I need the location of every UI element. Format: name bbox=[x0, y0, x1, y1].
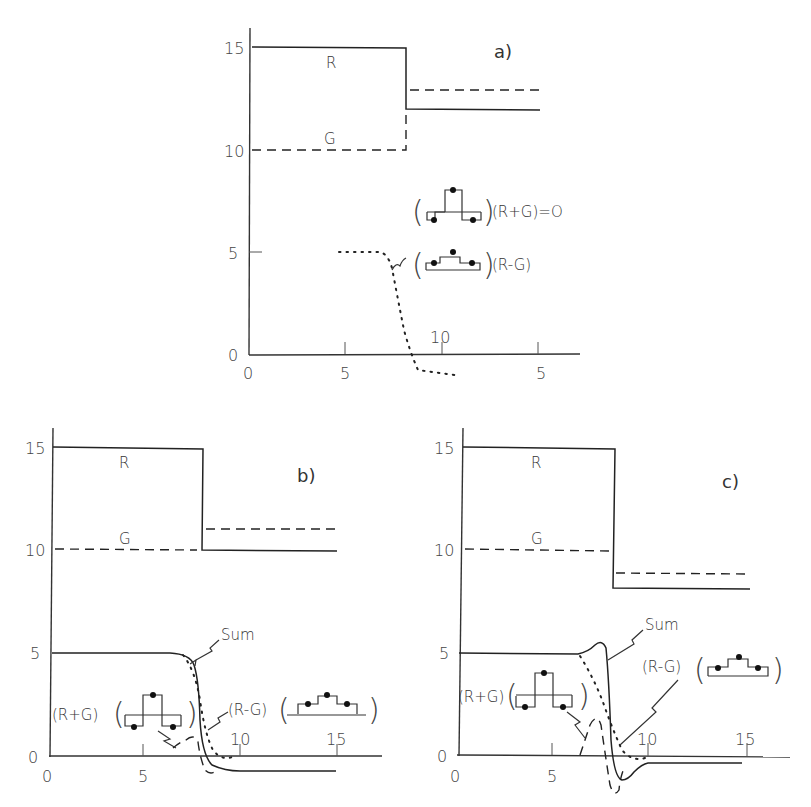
label-R: R bbox=[531, 454, 541, 472]
paren-left: ( bbox=[113, 696, 125, 731]
kernel-dot bbox=[715, 665, 721, 671]
kernel-dot bbox=[305, 701, 311, 707]
label-rg-diff: (R-G) bbox=[492, 256, 531, 274]
x-tick-label: 5 bbox=[138, 767, 148, 786]
y-tick-label: 5 bbox=[439, 644, 449, 663]
paren-left: ( bbox=[506, 678, 518, 713]
y-axis bbox=[249, 28, 250, 355]
x-tick-label: 0 bbox=[42, 767, 52, 786]
label-rg-sum: (R+G)=O bbox=[492, 203, 563, 221]
paren-right: ) bbox=[368, 692, 380, 727]
label-rg-sum: (R+G) bbox=[458, 688, 504, 706]
x-tick-label: 0 bbox=[243, 364, 253, 383]
kernel-dot bbox=[470, 217, 476, 223]
x-axis bbox=[249, 354, 580, 355]
label-sum: Sum bbox=[645, 616, 679, 634]
kernel-center-right bbox=[535, 673, 572, 707]
x-tick-label: 15 bbox=[735, 730, 755, 749]
label-R: R bbox=[326, 54, 336, 72]
pointer-arrow-sum bbox=[608, 630, 643, 660]
series-G bbox=[465, 549, 609, 551]
kernel-center bbox=[445, 190, 462, 212]
y-tick-label: 10 bbox=[224, 142, 244, 161]
label-G: G bbox=[531, 530, 543, 548]
kernel-dot bbox=[522, 704, 528, 710]
kernel-dot bbox=[736, 654, 742, 660]
kernel-dot bbox=[131, 724, 137, 730]
kernel-dot bbox=[560, 704, 566, 710]
y-tick-label: 0 bbox=[228, 346, 238, 365]
x-tick-label: 5 bbox=[536, 364, 546, 383]
y-tick-label: 15 bbox=[224, 39, 244, 58]
paren-left: ( bbox=[412, 247, 424, 282]
kernel-dot bbox=[450, 249, 456, 255]
kernel-dot bbox=[541, 670, 547, 676]
kernel-dot bbox=[450, 187, 456, 193]
panel-b: 15 10 5 0 0 5 10 15 R G b) Sum (R+G) ( bbox=[25, 428, 382, 786]
series-RG-sum bbox=[173, 737, 218, 773]
series-R bbox=[53, 447, 337, 551]
y-tick-label: 5 bbox=[30, 644, 40, 663]
label-rg-diff: (R-G) bbox=[228, 701, 267, 719]
paren-right: ) bbox=[186, 696, 198, 731]
kernel-left bbox=[125, 706, 143, 726]
x-tick-label: 15 bbox=[326, 730, 346, 749]
pointer-arrow-rg-sum bbox=[158, 731, 176, 748]
kernel-dot bbox=[431, 217, 437, 223]
x-tick-label: 10 bbox=[637, 730, 657, 749]
label-R: R bbox=[119, 454, 129, 472]
kernel-icon-rg-sum: ( ) bbox=[506, 670, 590, 713]
x-tick-label: 5 bbox=[340, 364, 350, 383]
kernel-icon-rg-diff: ( ) bbox=[278, 692, 380, 727]
series-R bbox=[463, 447, 750, 589]
paren-left: ( bbox=[412, 194, 424, 229]
y-axis bbox=[459, 428, 463, 756]
x-tick-label: 0 bbox=[450, 767, 460, 786]
pointer-arrow-rg-sum bbox=[567, 712, 585, 738]
label-G: G bbox=[119, 530, 131, 548]
kernel-dot bbox=[324, 692, 330, 698]
kernel-dot bbox=[344, 701, 350, 707]
kernel-icon-rg-diff: ( ) bbox=[694, 652, 784, 687]
paren-right: ) bbox=[772, 652, 784, 687]
y-tick-label: 10 bbox=[434, 541, 454, 560]
label-sum: Sum bbox=[221, 626, 255, 644]
y-tick-label: 15 bbox=[434, 439, 454, 458]
panel-label-a: a) bbox=[494, 41, 512, 62]
pointer-arrow-sum bbox=[196, 640, 219, 660]
x-axis bbox=[457, 755, 790, 757]
kernel-dot bbox=[170, 724, 176, 730]
series-RG-diff bbox=[580, 656, 645, 759]
paren-right: ) bbox=[578, 678, 590, 713]
kernel-center-right bbox=[143, 695, 181, 726]
paren-left: ( bbox=[694, 652, 706, 687]
series-G-right bbox=[616, 573, 748, 574]
label-G: G bbox=[324, 130, 336, 148]
panel-c: 15 10 5 0 0 5 10 15 R G c) Sum (R-G) ( ) bbox=[434, 428, 790, 793]
kernel-icon-rg-sum: ( ) (R+G)=O bbox=[412, 187, 563, 229]
x-tick-label: 5 bbox=[547, 767, 557, 786]
panel-label-b: b) bbox=[297, 465, 315, 486]
x-tick-label: 10 bbox=[230, 730, 250, 749]
pointer-arrow-rg-diff bbox=[208, 712, 228, 730]
kernel-dot bbox=[431, 260, 437, 266]
kernel-dot bbox=[150, 692, 156, 698]
x-tick-label: 10 bbox=[430, 328, 450, 347]
kernel-icon-rg-diff: ( ) (R-G) bbox=[392, 247, 531, 282]
kernel-icon-rg-sum: ( ) bbox=[113, 692, 198, 731]
figure: 15 10 5 0 0 5 10 5 R G a) ( ) (R+G)=O bbox=[0, 0, 811, 807]
y-tick-label: 5 bbox=[228, 244, 238, 263]
pointer-arrow bbox=[392, 258, 406, 270]
label-rg-sum: (R+G) bbox=[52, 706, 98, 724]
panel-a: 15 10 5 0 0 5 10 5 R G a) ( ) (R+G)=O bbox=[224, 28, 580, 383]
panel-label-c: c) bbox=[722, 471, 739, 492]
label-rg-diff: (R-G) bbox=[642, 658, 681, 676]
y-tick-label: 0 bbox=[28, 748, 38, 767]
kernel-dot bbox=[469, 260, 475, 266]
paren-left: ( bbox=[278, 692, 290, 727]
y-tick-label: 10 bbox=[25, 541, 45, 560]
kernel-dot bbox=[755, 665, 761, 671]
y-tick-label: 15 bbox=[25, 439, 45, 458]
series-G bbox=[55, 549, 197, 550]
y-tick-label: 0 bbox=[437, 747, 447, 766]
